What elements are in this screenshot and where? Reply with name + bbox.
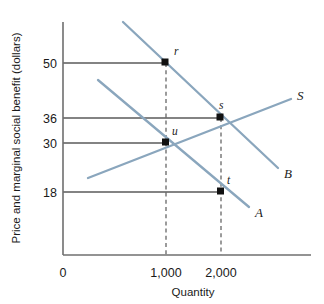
point-label-u: u — [172, 125, 178, 137]
curve-label-S: S — [297, 88, 304, 103]
x-tick-label-1000: 1,000 — [150, 266, 181, 280]
point-label-t: t — [227, 174, 231, 186]
point-label-r: r — [174, 45, 179, 57]
externality-chart: r s u t S B A 50 36 30 18 0 1,000 2,000 … — [0, 0, 324, 304]
x-tick-label-2000: 2,000 — [205, 266, 236, 280]
point-label-s: s — [219, 99, 224, 111]
chart-canvas: r s u t S B A 50 36 30 18 0 1,000 2,000 … — [0, 0, 324, 304]
y-tick-label-36: 36 — [43, 112, 57, 126]
x-tick-label-0: 0 — [60, 266, 67, 280]
curve-label-A: A — [254, 205, 263, 220]
point-marker-u — [162, 139, 169, 146]
y-tick-label-50: 50 — [43, 57, 57, 71]
curve-label-B: B — [284, 166, 292, 181]
y-axis-title: Price and marginal social benefit (dolla… — [10, 32, 22, 243]
point-marker-r — [162, 59, 169, 66]
y-tick-label-30: 30 — [43, 137, 57, 151]
y-tick-label-18: 18 — [43, 186, 57, 200]
x-axis-title: Quantity — [172, 286, 215, 298]
curve-benefit-B — [123, 22, 278, 168]
curve-supply-S — [88, 99, 291, 178]
point-marker-s — [217, 114, 224, 121]
point-marker-t — [217, 188, 224, 195]
